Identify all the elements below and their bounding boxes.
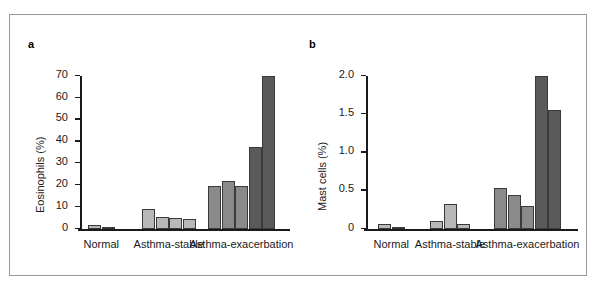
y-tick-b-0: 0 bbox=[361, 228, 366, 229]
bar-b-2-2 bbox=[521, 206, 534, 229]
y-tick-label-b-4: 2.0 bbox=[339, 68, 354, 81]
bar-b-0-1 bbox=[392, 227, 405, 229]
y-tick-a-7: 70 bbox=[75, 75, 80, 76]
panel-a-x-axis-line bbox=[78, 229, 290, 231]
bar-a-1-1 bbox=[156, 217, 169, 229]
figure-frame: a Eosinophils (%) 010203040506070NormalA… bbox=[9, 14, 587, 276]
y-tick-label-a-0: 0 bbox=[62, 221, 68, 234]
bar-a-1-2 bbox=[169, 218, 182, 229]
panel-a-y-axis-line bbox=[80, 76, 82, 229]
panel-b-y-axis-title: Mast cells (%) bbox=[316, 142, 328, 211]
y-tick-b-2: 1.0 bbox=[361, 151, 366, 152]
panel-b-x-axis-line bbox=[364, 229, 578, 231]
y-tick-label-b-2: 1.0 bbox=[339, 144, 354, 157]
panel-a-y-axis-title: Eosinophils (%) bbox=[34, 137, 46, 213]
bar-b-2-3 bbox=[535, 76, 548, 229]
bar-a-2-2 bbox=[235, 186, 248, 229]
y-tick-label-b-3: 1.5 bbox=[339, 106, 354, 119]
bar-b-1-1 bbox=[444, 204, 457, 229]
bar-a-1-3 bbox=[183, 219, 196, 229]
x-group-label-b-2: Asthma-exacerbation bbox=[476, 238, 580, 251]
x-group-label-a-0: Normal bbox=[84, 238, 119, 251]
y-tick-a-2: 20 bbox=[75, 184, 80, 185]
y-tick-label-a-1: 10 bbox=[56, 199, 68, 212]
panel-a-letter: a bbox=[28, 38, 34, 50]
y-tick-b-4: 2.0 bbox=[361, 75, 366, 76]
y-tick-a-5: 50 bbox=[75, 118, 80, 119]
y-tick-label-a-2: 20 bbox=[56, 177, 68, 190]
bar-b-0-0 bbox=[378, 224, 391, 229]
bar-a-2-4 bbox=[262, 76, 275, 229]
panel-b-letter: b bbox=[309, 38, 316, 50]
y-tick-a-1: 10 bbox=[75, 206, 80, 207]
y-tick-label-a-6: 60 bbox=[56, 90, 68, 103]
y-tick-a-4: 40 bbox=[75, 140, 80, 141]
y-tick-b-1: 0.5 bbox=[361, 189, 366, 190]
y-tick-a-6: 60 bbox=[75, 97, 80, 98]
y-tick-label-a-3: 30 bbox=[56, 155, 68, 168]
bar-b-2-0 bbox=[494, 188, 507, 229]
panel-b: b Mast cells (%) 00.51.01.52.0NormalAsth… bbox=[298, 15, 588, 275]
bar-b-1-0 bbox=[430, 221, 443, 229]
y-tick-a-3: 30 bbox=[75, 162, 80, 163]
y-tick-label-b-0: 0 bbox=[348, 221, 354, 234]
bar-a-1-0 bbox=[142, 209, 155, 229]
panel-b-y-axis-line bbox=[366, 76, 368, 229]
panel-a: a Eosinophils (%) 010203040506070NormalA… bbox=[10, 15, 300, 275]
bar-b-2-4 bbox=[548, 110, 561, 229]
bar-b-1-2 bbox=[457, 224, 470, 229]
y-tick-label-a-5: 50 bbox=[56, 111, 68, 124]
panel-a-plot-area: 010203040506070NormalAsthma-stableAsthma… bbox=[80, 76, 285, 229]
bar-a-2-0 bbox=[208, 186, 221, 229]
bar-a-2-3 bbox=[249, 147, 262, 229]
y-tick-a-0: 0 bbox=[75, 228, 80, 229]
y-tick-label-a-4: 40 bbox=[56, 133, 68, 146]
bar-a-2-1 bbox=[222, 181, 235, 229]
x-group-label-a-2: Asthma-exacerbation bbox=[190, 238, 294, 251]
x-group-label-b-0: Normal bbox=[374, 238, 409, 251]
panel-b-plot-area: 00.51.01.52.0NormalAsthma-stableAsthma-e… bbox=[366, 76, 573, 229]
bar-b-2-1 bbox=[508, 195, 521, 229]
bar-a-0-1 bbox=[102, 227, 115, 229]
bar-a-0-0 bbox=[88, 225, 101, 229]
y-tick-b-3: 1.5 bbox=[361, 113, 366, 114]
y-tick-label-b-1: 0.5 bbox=[339, 182, 354, 195]
y-tick-label-a-7: 70 bbox=[56, 68, 68, 81]
